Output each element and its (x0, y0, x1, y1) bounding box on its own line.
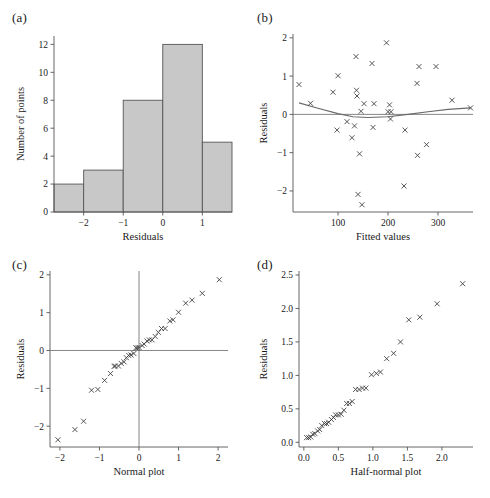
scatter-point (350, 135, 355, 140)
y-tick-label: 1 (282, 72, 287, 82)
scatter-point (333, 412, 338, 417)
x-axis-title: Half-normal plot (351, 466, 422, 477)
scatter-point (344, 401, 349, 406)
scatter-point (362, 101, 367, 106)
scatter-point (347, 401, 352, 406)
x-tick-label: 2 (216, 453, 221, 463)
scatter-point (359, 109, 364, 114)
x-tick-label: 1.0 (367, 453, 379, 463)
scatter-point (217, 277, 222, 282)
scatter-point (341, 408, 346, 413)
y-tick-label: 2 (39, 270, 44, 280)
scatter-point (450, 98, 455, 103)
scatter-point (435, 301, 440, 306)
panel-b-plot-area: −2−1012100200300Fitted valuesResiduals (245, 0, 490, 249)
scatter-point (55, 437, 60, 442)
scatter-point (336, 73, 341, 78)
histogram-bar (123, 100, 163, 212)
x-tick-label: 2.0 (436, 453, 448, 463)
y-tick-label: 12 (39, 40, 49, 50)
scatter-point (331, 415, 336, 420)
panel-c-plot-area: −2−1012−2−1012Normal plotResiduals (0, 249, 245, 498)
scatter-point (384, 40, 389, 45)
scatter-point (163, 326, 168, 331)
y-tick-label: −1 (34, 384, 44, 394)
scatter-point (372, 101, 377, 106)
scatter-point (345, 119, 350, 124)
y-tick-label: −1 (277, 148, 287, 158)
scatter-point (352, 123, 357, 128)
y-tick-label: 0.5 (281, 404, 293, 414)
scatter-point (102, 378, 107, 383)
scatter-point (360, 202, 365, 207)
scatter-point (354, 88, 359, 93)
scatter-point (331, 90, 336, 95)
panel-d-plot-area: 0.00.51.01.52.02.50.00.51.01.52.0Half-no… (245, 249, 490, 498)
scatter-point (402, 183, 407, 188)
scatter-point (417, 315, 422, 320)
scatter-point (308, 101, 313, 106)
scatter-point (200, 291, 205, 296)
y-axis-title: Residuals (258, 339, 269, 380)
y-tick-label: −2 (34, 422, 44, 432)
histogram-bar (54, 184, 84, 212)
y-axis-title: Number of points (15, 87, 26, 161)
x-tick-label: 300 (431, 218, 446, 228)
scatter-point (415, 153, 420, 158)
scatter-point (460, 281, 465, 286)
x-tick-label: −2 (79, 218, 89, 228)
histogram-bar (202, 142, 232, 212)
panel-c-normal-plot: (c) −2−1012−2−1012Normal plotResiduals (0, 249, 245, 498)
scatter-point (297, 82, 302, 87)
scatter-point (434, 64, 439, 69)
scatter-point (89, 388, 94, 393)
scatter-point (190, 298, 195, 303)
x-tick-label: −1 (94, 453, 104, 463)
scatter-point (363, 386, 368, 391)
scatter-point (384, 356, 389, 361)
scatter-point (371, 125, 376, 130)
scatter-point (108, 371, 113, 376)
x-tick-label: 1.5 (401, 453, 413, 463)
scatter-point (81, 419, 86, 424)
scatter-point (176, 310, 181, 315)
scatter-point (357, 151, 362, 156)
scatter-point (95, 387, 100, 392)
scatter-point (370, 61, 375, 66)
x-tick-label: 1 (176, 453, 181, 463)
y-tick-label: 2 (43, 179, 48, 189)
scatter-point (391, 351, 396, 356)
y-tick-label: 0 (43, 207, 48, 217)
x-tick-label: 100 (331, 218, 346, 228)
scatter-point (356, 192, 361, 197)
scatter-point (417, 64, 422, 69)
panel-b-residuals-vs-fitted: (b) −2−1012100200300Fitted valuesResidua… (245, 0, 490, 249)
y-axis-title: Residuals (15, 339, 26, 380)
y-tick-label: 4 (43, 152, 48, 162)
x-tick-label: 0.0 (298, 453, 310, 463)
histogram-bar (84, 170, 124, 212)
panel-d-half-normal-plot: (d) 0.00.51.01.52.02.50.00.51.01.52.0Hal… (245, 249, 490, 498)
scatter-point (378, 370, 383, 375)
y-tick-label: 6 (43, 124, 48, 134)
scatter-point (403, 128, 408, 133)
scatter-point (406, 317, 411, 322)
smoother-curve (299, 103, 471, 118)
scatter-point (374, 371, 379, 376)
panel-a-plot-area: 024681012−2−101ResidualsNumber of points (0, 0, 245, 249)
x-tick-label: −2 (55, 453, 65, 463)
scatter-point (335, 128, 340, 133)
y-tick-label: 0.0 (281, 438, 293, 448)
scatter-point (153, 334, 158, 339)
y-tick-label: 2.0 (281, 304, 293, 314)
x-tick-label: 0 (160, 218, 165, 228)
x-tick-label: −1 (118, 218, 128, 228)
scatter-point (424, 142, 429, 147)
x-tick-label: 0 (137, 453, 142, 463)
y-tick-label: 2.5 (281, 270, 293, 280)
residual-diagnostics-figure: (a) 024681012−2−101ResidualsNumber of po… (0, 0, 490, 498)
y-tick-label: 0 (39, 346, 44, 356)
x-axis-title: Normal plot (113, 466, 164, 477)
scatter-point (415, 81, 420, 86)
x-tick-label: 200 (381, 218, 396, 228)
